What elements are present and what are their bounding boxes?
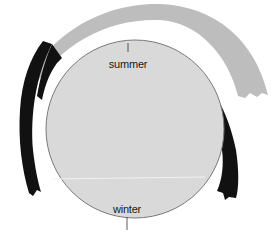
summer-label: summer (109, 58, 148, 70)
winter-label: winter (112, 203, 142, 215)
seasonal-cycle-diagram: summer winter (0, 0, 279, 242)
